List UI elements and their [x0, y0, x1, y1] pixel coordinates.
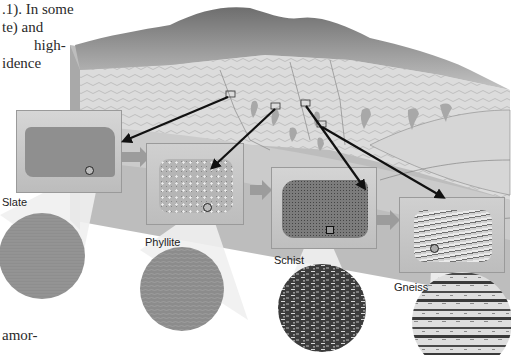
schist-magnified-lens: [278, 264, 366, 352]
label-slate: Slate: [2, 196, 27, 208]
label-phyllite: Phyllite: [145, 236, 180, 248]
phyllite-magnified-lens: [140, 247, 224, 331]
slate-magnified-lens: [0, 213, 85, 299]
pointer-arrows: [0, 0, 511, 355]
label-gneiss: Gneiss: [394, 281, 428, 293]
label-schist: Schist: [274, 254, 304, 266]
